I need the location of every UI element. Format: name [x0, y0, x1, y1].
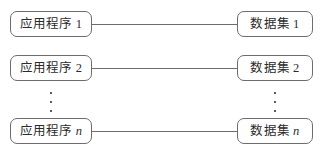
- mapping-row: 应用程序2 数据集2: [0, 55, 323, 81]
- mapping-diagram: 应用程序1 数据集1 应用程序2 数据集2 应用程序n 数据集n: [0, 0, 323, 154]
- dataset-node-1-index: 1: [293, 18, 299, 31]
- vertical-ellipsis-left-icon: [45, 92, 57, 112]
- application-node-1-index: 1: [76, 18, 82, 31]
- application-node-n-index: n: [76, 125, 82, 138]
- application-node-n: 应用程序n: [10, 118, 92, 144]
- connector-line-n: [92, 131, 237, 132]
- vertical-ellipsis-right-icon: [269, 92, 281, 112]
- ellipsis-dot: [50, 110, 52, 112]
- dataset-node-n-label: 数据集: [250, 125, 290, 138]
- dataset-node-n: 数据集n: [237, 118, 313, 144]
- ellipsis-dot: [274, 92, 276, 94]
- ellipsis-dot: [274, 101, 276, 103]
- dataset-node-2-label: 数据集: [250, 62, 290, 75]
- application-node-n-label: 应用程序: [20, 125, 73, 138]
- application-node-2: 应用程序2: [10, 55, 92, 81]
- ellipsis-dot: [50, 92, 52, 94]
- mapping-row: 应用程序n 数据集n: [0, 118, 323, 144]
- application-node-2-index: 2: [76, 62, 82, 75]
- ellipsis-dot: [50, 101, 52, 103]
- dataset-node-1-label: 数据集: [250, 18, 290, 31]
- application-node-1: 应用程序1: [10, 11, 92, 37]
- ellipsis-dot: [274, 110, 276, 112]
- application-node-2-label: 应用程序: [20, 62, 73, 75]
- application-node-1-label: 应用程序: [20, 18, 73, 31]
- dataset-node-2: 数据集2: [237, 55, 313, 81]
- connector-line-2: [92, 68, 237, 69]
- mapping-row: 应用程序1 数据集1: [0, 11, 323, 37]
- dataset-node-1: 数据集1: [237, 11, 313, 37]
- dataset-node-n-index: n: [293, 125, 299, 138]
- dataset-node-2-index: 2: [293, 62, 299, 75]
- connector-line-1: [92, 24, 237, 25]
